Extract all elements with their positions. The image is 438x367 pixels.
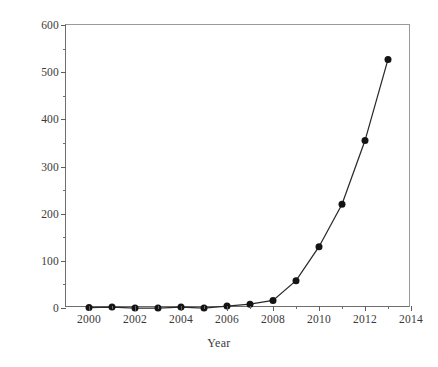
series-layer bbox=[66, 25, 411, 308]
y-axis-tick-major bbox=[61, 72, 66, 73]
data-point-marker bbox=[293, 277, 300, 284]
x-axis-tick-major bbox=[89, 306, 90, 311]
y-axis-tick-major bbox=[61, 308, 66, 309]
y-axis-tick-major bbox=[61, 214, 66, 215]
data-point-marker bbox=[339, 201, 346, 208]
y-axis-tick-major bbox=[61, 25, 66, 26]
y-axis-tick-label: 100 bbox=[41, 255, 59, 267]
y-axis-tick-minor bbox=[63, 190, 66, 191]
y-axis-tick-major bbox=[61, 167, 66, 168]
x-axis-tick-major bbox=[135, 306, 136, 311]
series-line bbox=[89, 59, 388, 308]
y-axis-tick-label: 400 bbox=[41, 113, 59, 125]
data-point-marker bbox=[362, 137, 369, 144]
x-axis-tick-label: 2000 bbox=[77, 313, 101, 325]
x-axis-tick-label: 2004 bbox=[169, 313, 193, 325]
x-axis-tick-minor bbox=[342, 306, 343, 309]
data-point-marker bbox=[316, 243, 323, 250]
x-axis-tick-minor bbox=[204, 306, 205, 309]
plot-area: 0100200300400500600200020022004200620082… bbox=[65, 24, 410, 307]
y-axis-tick-minor bbox=[63, 96, 66, 97]
y-axis-tick-label: 500 bbox=[41, 66, 59, 78]
x-axis-tick-major bbox=[365, 306, 366, 311]
y-axis-tick-major bbox=[61, 119, 66, 120]
x-axis-tick-label: 2008 bbox=[261, 313, 285, 325]
x-axis-tick-major bbox=[411, 306, 412, 311]
x-axis-tick-label: 2002 bbox=[123, 313, 147, 325]
x-axis-tick-major bbox=[319, 306, 320, 311]
x-axis-tick-major bbox=[227, 306, 228, 311]
y-axis-tick-label: 300 bbox=[41, 161, 59, 173]
y-axis-tick-label: 600 bbox=[41, 19, 59, 31]
x-axis-tick-label: 2014 bbox=[399, 313, 423, 325]
x-axis-tick-label: 2012 bbox=[353, 313, 377, 325]
x-axis-title: Year bbox=[0, 336, 438, 351]
y-axis-tick-minor bbox=[63, 49, 66, 50]
x-axis-tick-major bbox=[273, 306, 274, 311]
y-axis-tick-major bbox=[61, 261, 66, 262]
x-axis-tick-minor bbox=[388, 306, 389, 309]
y-axis-tick-minor bbox=[63, 237, 66, 238]
x-axis-tick-major bbox=[181, 306, 182, 311]
x-axis-tick-minor bbox=[158, 306, 159, 309]
y-axis-tick-label: 200 bbox=[41, 208, 59, 220]
x-axis-tick-label: 2010 bbox=[307, 313, 331, 325]
x-axis-tick-minor bbox=[296, 306, 297, 309]
y-axis-tick-minor bbox=[63, 143, 66, 144]
data-point-marker bbox=[385, 56, 392, 63]
y-axis-tick-minor bbox=[63, 284, 66, 285]
x-axis-tick-minor bbox=[112, 306, 113, 309]
data-point-marker bbox=[270, 297, 277, 304]
x-axis-tick-minor bbox=[250, 306, 251, 309]
x-axis-tick-label: 2006 bbox=[215, 313, 239, 325]
y-axis-tick-label: 0 bbox=[53, 302, 59, 314]
publications-line-chart: 0100200300400500600200020022004200620082… bbox=[0, 0, 438, 367]
